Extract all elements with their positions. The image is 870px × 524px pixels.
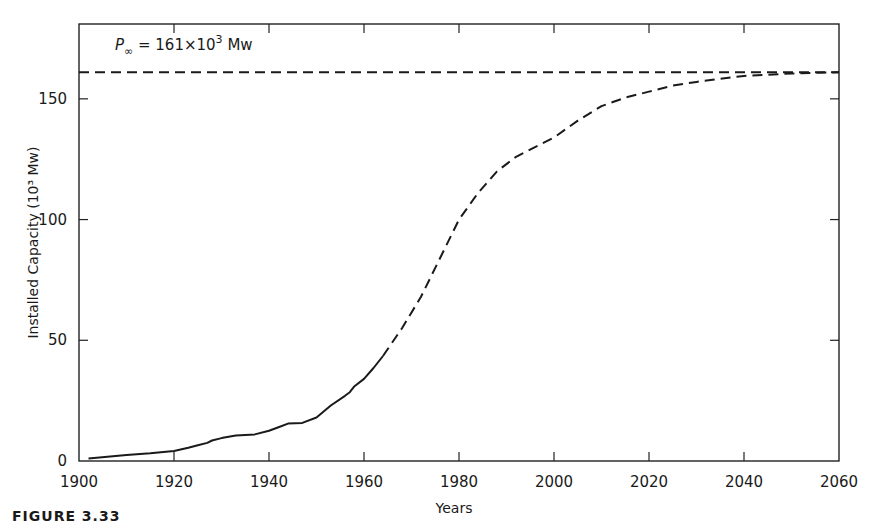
x-tick-label: 1980 — [440, 473, 478, 491]
x-tick-label: 2040 — [725, 473, 763, 491]
axis-ticks — [79, 24, 839, 461]
annotation-value: = 161×10 — [133, 36, 215, 54]
x-tick-label: 2020 — [630, 473, 668, 491]
x-tick-label: 1960 — [345, 473, 383, 491]
figure-caption: FIGURE 3.33 — [12, 508, 120, 524]
plot-border — [79, 24, 839, 461]
y-tick-labels: 050100150 — [38, 90, 67, 470]
x-tick-labels: 190019201940196019802000202020402060 — [60, 473, 858, 491]
series-group — [79, 72, 839, 458]
annotation-superscript: 3 — [216, 33, 223, 46]
series-line-logistic-projection — [383, 72, 839, 356]
x-tick-label: 1900 — [60, 473, 98, 491]
y-tick-label: 150 — [38, 90, 67, 108]
y-tick-label: 50 — [48, 331, 67, 349]
annotation-unit: Mw — [223, 36, 253, 54]
plot-frame — [79, 24, 839, 461]
y-axis-title: Installed Capacity (10³ Mw) — [25, 146, 41, 338]
x-axis-title: Years — [435, 500, 473, 516]
x-tick-label: 2060 — [820, 473, 858, 491]
x-tick-label: 2000 — [535, 473, 573, 491]
annotation-subscript: ∞ — [124, 45, 133, 58]
series-line-historical — [89, 356, 384, 459]
x-tick-label: 1940 — [250, 473, 288, 491]
x-tick-label: 1920 — [155, 473, 193, 491]
y-tick-label: 0 — [57, 452, 67, 470]
asymptote-annotation: P∞ = 161×103 Mw — [115, 33, 253, 58]
y-tick-label: 100 — [38, 211, 67, 229]
